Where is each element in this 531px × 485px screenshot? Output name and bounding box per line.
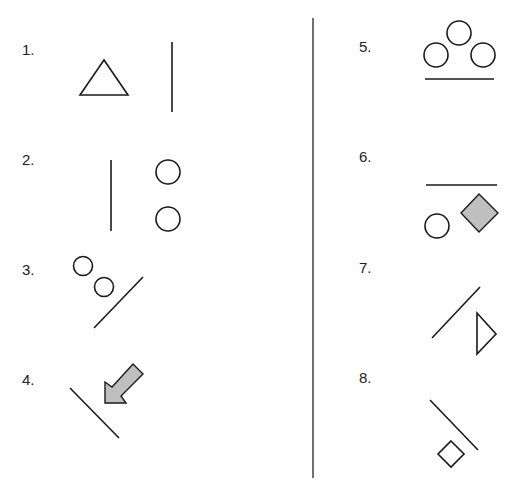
diagonal-line — [432, 287, 480, 338]
diamond-icon — [438, 441, 464, 467]
item-6-label: 6. — [359, 148, 372, 165]
circle-icon — [156, 160, 180, 184]
item-8-label: 8. — [359, 369, 372, 386]
circle-icon — [156, 207, 180, 231]
diagonal-line — [94, 277, 143, 328]
triangle-icon — [80, 60, 128, 95]
item-1: 1. — [22, 41, 172, 112]
item-3-label: 3. — [22, 261, 35, 278]
item-5: 5. — [359, 21, 495, 79]
arrow-down-left-icon — [105, 364, 143, 403]
circle-icon — [471, 43, 495, 67]
item-5-label: 5. — [359, 38, 372, 55]
item-6: 6. — [359, 148, 498, 238]
triangle-right-icon — [477, 313, 496, 354]
diagonal-line — [430, 400, 478, 450]
puzzle-canvas: 1. 2. 3. 4. 5. 6. 7. — [0, 0, 531, 485]
item-4: 4. — [22, 364, 143, 438]
item-4-label: 4. — [22, 371, 35, 388]
item-7: 7. — [359, 259, 496, 354]
item-1-label: 1. — [22, 41, 35, 58]
item-2-label: 2. — [22, 151, 35, 168]
item-3: 3. — [22, 257, 143, 329]
item-2: 2. — [22, 151, 180, 231]
item-8: 8. — [359, 369, 478, 467]
diamond-icon — [461, 194, 498, 232]
circle-icon — [425, 214, 449, 238]
circle-icon — [95, 278, 114, 297]
circle-icon — [424, 43, 448, 67]
item-7-label: 7. — [359, 259, 372, 276]
circle-icon — [447, 21, 471, 45]
circle-icon — [74, 257, 93, 276]
